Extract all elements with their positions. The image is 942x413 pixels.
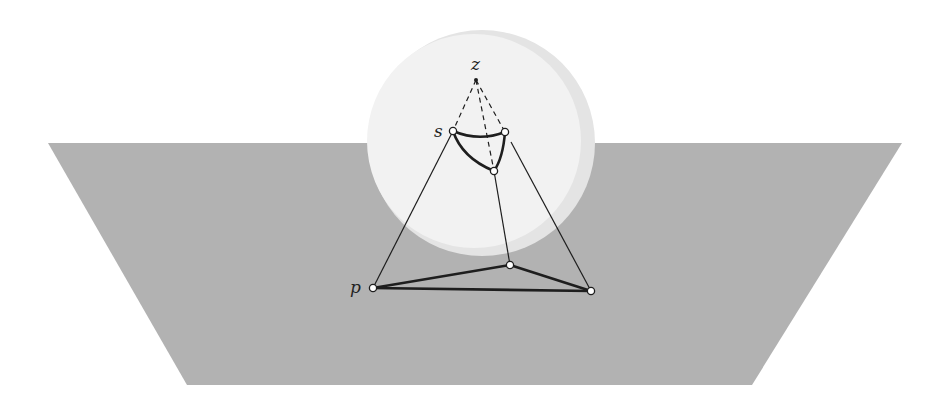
vertex-z [474,78,478,82]
label-s: s [434,121,443,141]
vertex-s3 [490,167,497,174]
vertex-q [506,261,513,268]
vertex-r [587,287,594,294]
label-z: z [470,54,481,74]
vertex-s [449,127,456,134]
vertex-s2 [501,128,508,135]
vertex-p [369,284,376,291]
stereographic-projection-diagram: z s p [0,0,942,413]
label-p: p [350,277,361,297]
